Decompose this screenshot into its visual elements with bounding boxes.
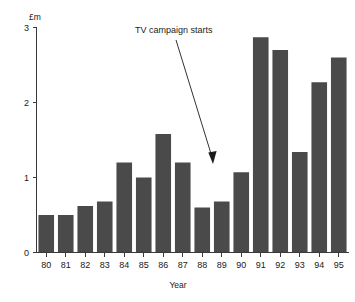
x-tick-label-89: 89 — [217, 260, 227, 270]
x-tick-label-94: 94 — [314, 260, 324, 270]
y-tick-label-0: 0 — [24, 248, 29, 258]
annotation-group: TV campaign starts — [135, 25, 217, 164]
y-tick-label-1: 1 — [24, 173, 29, 183]
x-tick-label-90: 90 — [236, 260, 246, 270]
bar-91 — [253, 37, 269, 252]
bar-89 — [214, 202, 230, 253]
bar-94 — [311, 82, 327, 252]
chart-canvas: 3 2 1 0 £m 80818283848586878889909192939… — [0, 0, 355, 302]
x-tick-label-82: 82 — [80, 260, 90, 270]
y-axis-group: 3 2 1 0 £m — [24, 12, 41, 258]
bar-95 — [331, 58, 347, 253]
bar-80 — [38, 215, 54, 253]
bar-83 — [97, 202, 113, 253]
x-tick-label-83: 83 — [100, 260, 110, 270]
x-tick-label-93: 93 — [295, 260, 305, 270]
y-tick-label-3: 3 — [24, 23, 29, 33]
bars-group — [38, 37, 346, 252]
x-axis-group: 80818283848586878889909192939495 Year — [37, 253, 349, 291]
x-tick-label-85: 85 — [139, 260, 149, 270]
bar-87 — [175, 163, 191, 253]
x-tick-label-80: 80 — [41, 260, 51, 270]
y-axis-unit-label: £m — [29, 12, 41, 22]
x-tick-labels-group: 80818283848586878889909192939495 — [41, 260, 344, 270]
annotation-arrow-head — [208, 151, 216, 164]
bar-chart-figure: 3 2 1 0 £m 80818283848586878889909192939… — [0, 0, 355, 302]
bar-85 — [136, 178, 152, 253]
bar-82 — [77, 206, 93, 253]
x-tick-marks-group — [46, 253, 339, 257]
x-tick-label-92: 92 — [275, 260, 285, 270]
bar-81 — [58, 215, 74, 253]
bar-84 — [116, 163, 132, 253]
x-tick-label-84: 84 — [119, 260, 129, 270]
x-tick-label-88: 88 — [197, 260, 207, 270]
x-tick-label-87: 87 — [178, 260, 188, 270]
annotation-label-tv-campaign: TV campaign starts — [135, 25, 213, 35]
x-axis-title: Year — [169, 280, 186, 290]
x-tick-label-95: 95 — [334, 260, 344, 270]
bar-93 — [292, 152, 308, 253]
annotation-arrow-line — [176, 40, 212, 157]
bar-90 — [233, 172, 249, 252]
x-tick-label-81: 81 — [61, 260, 71, 270]
x-tick-label-86: 86 — [158, 260, 168, 270]
bar-88 — [194, 208, 210, 253]
y-tick-label-2: 2 — [24, 98, 29, 108]
x-tick-label-91: 91 — [256, 260, 266, 270]
bar-86 — [155, 134, 171, 253]
bar-92 — [272, 50, 288, 253]
